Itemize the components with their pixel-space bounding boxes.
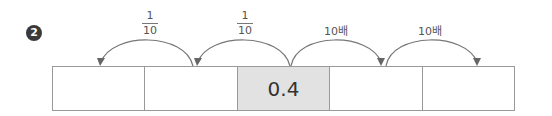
arrow-3-label: 10배 [316, 22, 356, 38]
arrow-2-label: 1 10 [233, 10, 257, 37]
cell-4 [330, 67, 422, 110]
arrow-1-label: 1 10 [138, 10, 162, 37]
place-value-row: 0.4 [52, 66, 515, 111]
cell-1 [53, 67, 145, 110]
arrow-2-left [198, 40, 290, 66]
cell-2 [145, 67, 237, 110]
arrow-4-label: 10배 [410, 22, 450, 38]
arrow-1-left [101, 40, 193, 66]
cell-5 [423, 67, 514, 110]
cell-3-highlighted: 0.4 [238, 67, 330, 110]
arrow-3-right [291, 40, 381, 66]
arrow-4-right [386, 40, 477, 66]
